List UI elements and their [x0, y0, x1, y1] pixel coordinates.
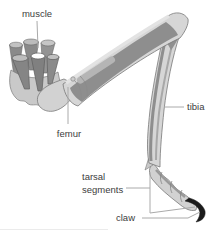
muscle-fiber-top [47, 54, 59, 59]
tarsal-segments-shape [149, 163, 197, 211]
tarsal-segments-label-line1: tarsal [82, 171, 105, 182]
claw-label: claw [116, 212, 135, 223]
muscle-fiber-top [12, 55, 28, 62]
muscle-fiber-top [31, 53, 45, 59]
muscle-fiber-top [24, 39, 39, 45]
tarsal-segments-label-line2: segments [82, 184, 123, 195]
diagram-canvas: muscle femur tibia tarsal segments claw [0, 0, 214, 234]
muscle-fiber-top [41, 40, 55, 46]
femur-label: femur [57, 128, 81, 139]
muscle-fiber-top [10, 42, 23, 48]
insect-leg-diagram: muscle femur tibia tarsal segments claw [0, 0, 214, 234]
muscle-label: muscle [22, 8, 52, 19]
tibia-label: tibia [187, 101, 205, 112]
femur-joint-knob [71, 77, 75, 81]
